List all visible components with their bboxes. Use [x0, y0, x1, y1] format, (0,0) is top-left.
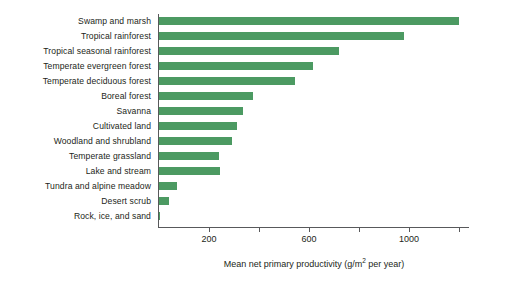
bar-row: [159, 134, 469, 149]
category-label: Tundra and alpine meadow: [0, 179, 155, 194]
category-axis-labels: Swamp and marsh Tropical rainforest Trop…: [0, 14, 155, 224]
bar-row: [159, 119, 469, 134]
x-axis-tick: [259, 227, 260, 232]
bar-row: [159, 164, 469, 179]
bar-row: [159, 14, 469, 29]
bar: [159, 122, 237, 130]
bar-row: [159, 149, 469, 164]
category-label: Swamp and marsh: [0, 14, 155, 29]
bar: [159, 32, 404, 40]
bar: [159, 17, 459, 25]
bar-chart: Swamp and marsh Tropical rainforest Trop…: [0, 0, 506, 282]
bar: [159, 212, 160, 220]
bar-row: [159, 194, 469, 209]
bar-row: [159, 74, 469, 89]
bar: [159, 47, 339, 55]
bar-row: [159, 209, 469, 224]
x-axis-title-before: Mean net primary productivity (g/m: [224, 259, 363, 269]
bar: [159, 77, 295, 85]
bar: [159, 152, 219, 160]
x-axis-tick-label: 1000: [399, 234, 419, 244]
bar-row: [159, 89, 469, 104]
category-label: Temperate deciduous forest: [0, 74, 155, 89]
bar-row: [159, 44, 469, 59]
bar: [159, 92, 253, 100]
category-label: Tropical rainforest: [0, 29, 155, 44]
x-axis-tick-label: 600: [301, 234, 316, 244]
bar-row: [159, 59, 469, 74]
bar-row: [159, 179, 469, 194]
bar-row: [159, 104, 469, 119]
bar-row: [159, 29, 469, 44]
category-label: Boreal forest: [0, 89, 155, 104]
x-axis-tick: [359, 227, 360, 232]
category-label: Rock, ice, and sand: [0, 209, 155, 224]
x-axis-tick: [209, 227, 210, 232]
bar: [159, 167, 220, 175]
bar: [159, 107, 243, 115]
category-label: Temperate evergreen forest: [0, 59, 155, 74]
plot-area: [159, 14, 469, 227]
bar: [159, 197, 169, 205]
category-label: Tropical seasonal rainforest: [0, 44, 155, 59]
bar: [159, 137, 232, 145]
category-label: Temperate grassland: [0, 149, 155, 164]
x-axis-title-after: per year): [366, 259, 405, 269]
x-axis-title: Mean net primary productivity (g/m2 per …: [159, 259, 469, 269]
category-label: Lake and stream: [0, 164, 155, 179]
category-label: Desert scrub: [0, 194, 155, 209]
x-axis-tick: [309, 227, 310, 232]
x-axis-tick-label: 200: [201, 234, 216, 244]
bar: [159, 62, 313, 70]
bar: [159, 182, 177, 190]
category-label: Cultivated land: [0, 119, 155, 134]
x-axis-line: [158, 227, 469, 228]
category-label: Woodland and shrubland: [0, 134, 155, 149]
x-axis-tick: [459, 227, 460, 232]
category-label: Savanna: [0, 104, 155, 119]
x-axis-tick: [409, 227, 410, 232]
bar-series: [159, 14, 469, 224]
